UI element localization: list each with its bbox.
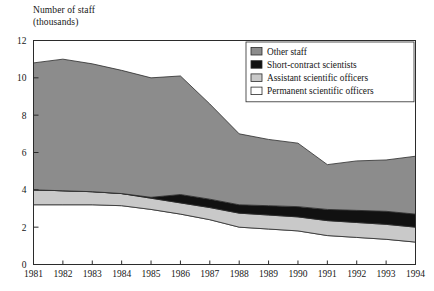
staff-numbers-area-chart: Number of staff(thousands) 024681012 198… <box>0 0 434 291</box>
x-tick-label: 1988 <box>230 269 249 279</box>
legend-swatch-3 <box>251 87 262 95</box>
x-tick-label: 1985 <box>142 269 161 279</box>
x-tick-label: 1994 <box>406 269 425 279</box>
y-tick-label: 12 <box>17 36 27 46</box>
x-tick-label: 1990 <box>288 269 307 279</box>
chart-legend: Other staffShort-contract scientistsAssi… <box>246 42 414 102</box>
legend-label-3: Permanent scientific officers <box>267 86 374 96</box>
x-tick-label: 1983 <box>83 269 102 279</box>
legend-swatch-1 <box>251 61 262 68</box>
x-tick-label: 1982 <box>53 269 72 279</box>
x-tick-label: 1984 <box>112 269 131 279</box>
legend-label-0: Other staff <box>267 47 308 57</box>
y-tick-label: 2 <box>22 223 27 233</box>
legend-swatch-2 <box>251 74 262 82</box>
y-tick-label: 4 <box>22 185 27 195</box>
x-tick-label: 1991 <box>318 269 337 279</box>
x-tick-label: 1992 <box>347 269 366 279</box>
legend-label-2: Assistant scientific officers <box>267 73 368 83</box>
y-tick-label: 8 <box>22 111 27 121</box>
plot-area: 024681012 198119821983198419851986198719… <box>0 0 434 291</box>
y-tick-label: 10 <box>17 73 27 83</box>
x-tick-label: 1986 <box>171 269 190 279</box>
legend-swatch-0 <box>251 48 262 56</box>
y-tick-label: 6 <box>22 148 27 158</box>
x-tick-label: 1989 <box>259 269 278 279</box>
x-tick-label: 1993 <box>377 269 396 279</box>
legend-label-1: Short-contract scientists <box>267 60 357 70</box>
x-tick-label: 1987 <box>200 269 219 279</box>
x-tick-label: 1981 <box>24 269 43 279</box>
